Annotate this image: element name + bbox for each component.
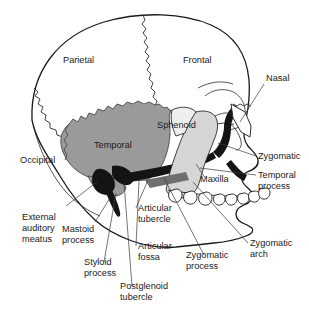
label-parietal: Parietal (63, 55, 94, 65)
label-mastoid-process: Mastoid process (62, 224, 97, 245)
label-maxilla: Maxilla (200, 174, 229, 184)
label-occipital: Occipital (20, 155, 55, 165)
tooth-premolar-2 (214, 194, 225, 205)
label-frontal: Frontal (183, 55, 212, 65)
label-temporal: Temporal (94, 140, 132, 150)
label-zygomatic: Zygomatic (258, 151, 301, 161)
tooth-molar-1 (199, 192, 212, 205)
tooth-molar-2 (184, 191, 197, 204)
label-sphenoid: Sphenoid (157, 120, 196, 130)
label-nasal: Nasal (266, 73, 290, 83)
diagram-canvas: Parietal Frontal Occipital Temporal Sphe… (0, 0, 309, 313)
skull-lateral-diagram: Parietal Frontal Occipital Temporal Sphe… (0, 0, 309, 313)
tooth-premolar-1 (226, 194, 237, 205)
label-articular-tubercle: Articular tubercle (138, 203, 174, 224)
tooth-canine (238, 193, 249, 204)
label-styloid-process: Styloid process (84, 257, 117, 278)
